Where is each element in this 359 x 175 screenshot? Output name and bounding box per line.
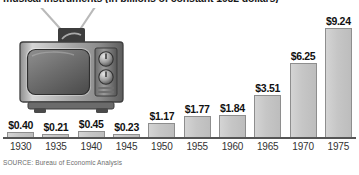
bar-group-1950[interactable]: $1.17 (144, 14, 179, 137)
x-tick-1970: 1970 (285, 141, 320, 152)
bar-group-1975[interactable]: $9.24 (321, 14, 356, 137)
x-tick-1940: 1940 (74, 141, 109, 152)
bar-group-1970[interactable]: $6.25 (285, 14, 320, 137)
bar-value-label: $1.17 (149, 111, 174, 122)
tv-foot-left (34, 108, 46, 113)
bar-value-label: $1.84 (220, 103, 245, 114)
x-axis-tick-labels: 1930 1935 1940 1945 1950 1955 1960 1965 … (3, 141, 356, 152)
bar-value-label: $6.25 (291, 51, 316, 62)
bar-rect[interactable] (184, 116, 211, 137)
x-tick-1955: 1955 (179, 141, 214, 152)
bar-chart-figure: musical instruments (in billions of cons… (0, 0, 359, 175)
tv-screen (28, 50, 90, 95)
chart-title: musical instruments (in billions of cons… (3, 0, 355, 3)
bar-rect[interactable] (219, 115, 246, 137)
bar-value-label: $3.51 (255, 83, 280, 94)
bar-group-1965[interactable]: $3.51 (250, 14, 285, 137)
x-tick-1950: 1950 (144, 141, 179, 152)
bar-value-label: $0.21 (44, 122, 69, 133)
bar-group-1955[interactable]: $1.77 (179, 14, 214, 137)
x-tick-1930: 1930 (3, 141, 38, 152)
x-tick-1965: 1965 (250, 141, 285, 152)
x-tick-1975: 1975 (321, 141, 356, 152)
bar-value-label: $9.24 (326, 16, 351, 27)
bar-value-label: $0.45 (79, 119, 104, 130)
tv-base (28, 102, 114, 109)
bar-rect[interactable] (254, 95, 281, 137)
antenna-base (58, 28, 85, 43)
bar-value-label: $0.23 (114, 122, 139, 133)
source-note: SOURCE: Bureau of Economic Analysis (3, 159, 122, 166)
bar-rect[interactable] (325, 28, 352, 138)
bar-group-1960[interactable]: $1.84 (215, 14, 250, 137)
bar-value-label: $1.77 (185, 104, 210, 115)
x-tick-1935: 1935 (38, 141, 73, 152)
bar-value-label: $0.40 (8, 120, 33, 131)
x-tick-1945: 1945 (109, 141, 144, 152)
bar-rect[interactable] (148, 123, 175, 137)
television-illustration (18, 8, 130, 120)
x-tick-1960: 1960 (215, 141, 250, 152)
bar-rect[interactable] (290, 63, 317, 137)
x-axis-line (3, 137, 356, 139)
tv-foot-right (96, 108, 108, 113)
